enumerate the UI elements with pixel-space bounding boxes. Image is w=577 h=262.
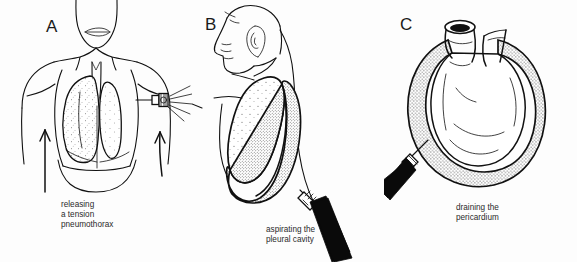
caption-a: releasing a tension pneumothorax bbox=[61, 200, 113, 231]
cannula-with-escaping-air bbox=[136, 94, 168, 107]
head-and-neck-frontal bbox=[54, 0, 137, 70]
panel-c: C bbox=[384, 0, 577, 262]
syringe-black-barrel bbox=[384, 158, 416, 200]
caption-c: draining the pericardium bbox=[456, 203, 499, 223]
air-escape-lines bbox=[168, 86, 192, 121]
heart-body bbox=[431, 53, 525, 166]
panel-b: B bbox=[192, 0, 384, 262]
left-upward-arrow bbox=[40, 130, 50, 192]
right-upward-arrow bbox=[155, 132, 165, 176]
ear bbox=[247, 26, 265, 57]
head-profile-facing-left bbox=[214, 6, 281, 74]
caption-b: aspirating the pleural cavity bbox=[266, 225, 315, 245]
right-lung-stippled bbox=[63, 76, 99, 162]
panel-b-artwork bbox=[192, 0, 384, 262]
medical-illustration-figure: A bbox=[0, 0, 577, 262]
panel-a: A bbox=[0, 0, 192, 262]
collapsed-left-lung-stippled bbox=[100, 82, 122, 158]
